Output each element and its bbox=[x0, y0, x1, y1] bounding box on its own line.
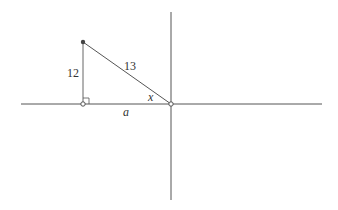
hypotenuse-label: 13 bbox=[124, 59, 136, 73]
bottom-left-vertex-point bbox=[81, 102, 85, 106]
hypotenuse bbox=[83, 42, 171, 104]
horizontal-leg-label: a bbox=[123, 105, 129, 119]
vertical-leg-label: 12 bbox=[67, 66, 79, 80]
angle-label: x bbox=[147, 90, 154, 104]
top-vertex-point bbox=[81, 40, 85, 44]
origin-vertex-point bbox=[169, 102, 173, 106]
diagram-canvas: 12 13 a x bbox=[0, 0, 338, 210]
